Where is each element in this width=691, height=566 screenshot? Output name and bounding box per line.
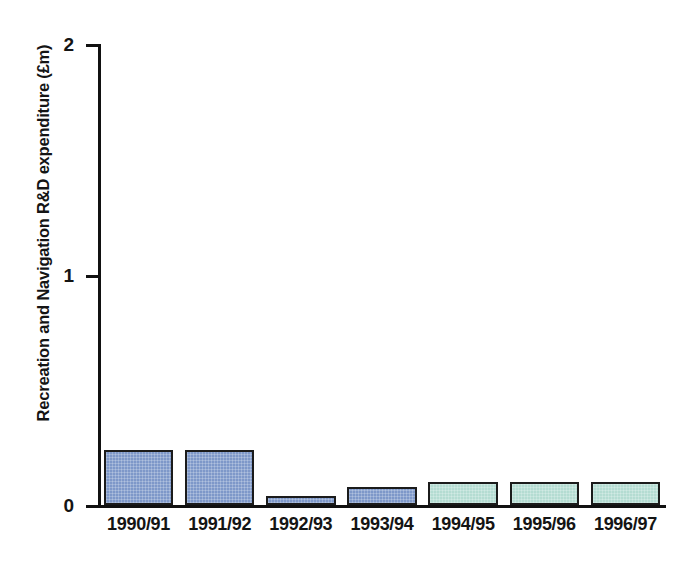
bar-1991-92 xyxy=(185,450,254,505)
bar-group xyxy=(104,44,173,505)
bar-group xyxy=(510,44,579,505)
y-tick-label-1: 1 xyxy=(0,266,74,285)
bar-1993-94 xyxy=(347,487,416,505)
x-tick-label-1991-92: 1991/92 xyxy=(179,515,260,535)
x-tick-label-1992-93: 1992/93 xyxy=(260,515,341,535)
bar-1996-97 xyxy=(591,482,660,505)
y-axis-title: Recreation and Navigation R&D expenditur… xyxy=(30,0,56,466)
bar-chart-figure: Recreation and Navigation R&D expenditur… xyxy=(0,0,691,566)
x-tick-label-1994-95: 1994/95 xyxy=(423,515,504,535)
bar-1995-96 xyxy=(510,482,579,505)
bar-group xyxy=(266,44,335,505)
x-tick-label-1993-94: 1993/94 xyxy=(341,515,422,535)
bar-1990-91 xyxy=(104,450,173,505)
y-tick-label-0: 0 xyxy=(0,496,74,515)
bar-1994-95 xyxy=(428,482,497,505)
x-axis-line xyxy=(98,505,666,508)
bar-group xyxy=(591,44,660,505)
bar-group xyxy=(185,44,254,505)
x-tick-label-1996-97: 1996/97 xyxy=(585,515,666,535)
x-tick-label-1995-96: 1995/96 xyxy=(504,515,585,535)
bar-1992-93 xyxy=(266,496,335,505)
plot-area xyxy=(98,44,666,505)
bar-group xyxy=(347,44,416,505)
y-tick-mark-0 xyxy=(86,505,99,508)
x-tick-label-1990-91: 1990/91 xyxy=(98,515,179,535)
bar-group xyxy=(428,44,497,505)
y-tick-label-2: 2 xyxy=(0,35,74,54)
